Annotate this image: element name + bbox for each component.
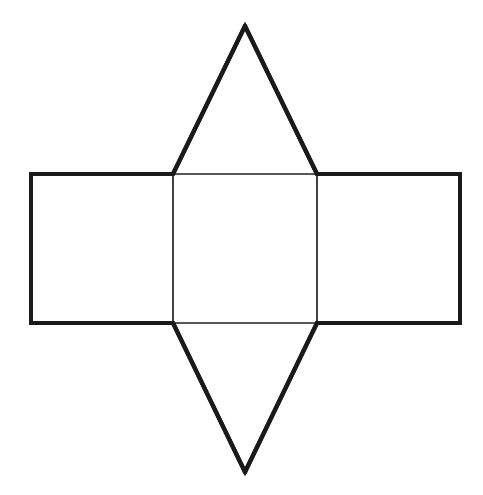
figure-canvas: Net of a triangular prism bbox=[0, 0, 483, 495]
face-center-rectangle bbox=[173, 174, 317, 323]
net-diagram bbox=[0, 0, 483, 495]
face-left-rectangle bbox=[31, 174, 173, 323]
face-right-rectangle bbox=[317, 174, 460, 323]
